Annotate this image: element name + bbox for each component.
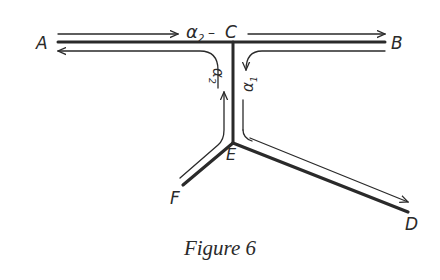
flow-arrow-b-to-stem	[246, 51, 385, 70]
node-label-b: B	[391, 33, 403, 53]
alpha2-stem-subscript: 2	[207, 78, 217, 84]
channel-lines	[58, 42, 408, 212]
node-label-f: F	[170, 188, 180, 208]
alpha2-top-dash: –	[208, 24, 215, 40]
node-label-e: E	[226, 145, 237, 164]
flow-arrow-e-to-d	[250, 138, 408, 202]
node-label-c: C	[225, 22, 237, 42]
alpha2-top-symbol: α	[186, 21, 198, 42]
flow-arrow-stem-curve-right	[243, 130, 252, 141]
alpha1-stem-subscript: 1	[249, 76, 259, 82]
node-label-d: D	[405, 214, 418, 234]
alpha1-stem-symbol: α	[239, 82, 257, 92]
flow-arrow-f-to-stem	[180, 92, 224, 178]
node-label-a: A	[35, 33, 48, 53]
branch-e-d	[233, 143, 408, 212]
figure-caption: Figure 6	[0, 236, 440, 261]
alpha2-stem-label: α 2	[207, 68, 227, 84]
alpha2-stem-symbol: α	[209, 68, 227, 78]
flow-arrow-to-a	[58, 51, 218, 88]
alpha1-stem-label: α 1	[239, 76, 259, 92]
alpha2-top-subscript: 2	[198, 33, 204, 44]
